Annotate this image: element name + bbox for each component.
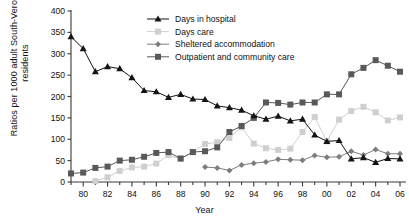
data-point-marker: [239, 162, 245, 168]
data-point-marker: [226, 129, 232, 135]
data-point-marker: [324, 154, 330, 160]
data-point-marker: [155, 41, 161, 47]
data-point-marker: [214, 165, 220, 171]
data-point-marker: [300, 157, 306, 163]
legend-label: Days in hospital: [175, 14, 236, 24]
y-axis-tick-label: 50: [55, 156, 65, 166]
y-axis-tick-label: 150: [51, 113, 66, 123]
data-point-marker: [373, 147, 379, 153]
legend-item: Days in hospital: [147, 14, 236, 24]
data-point-marker: [202, 148, 208, 154]
data-point-marker: [336, 91, 342, 97]
y-axis-tick-label: 0: [60, 177, 65, 187]
data-point-marker: [336, 117, 342, 123]
data-point-marker: [202, 141, 208, 147]
data-point-marker: [117, 168, 123, 174]
data-point-marker: [384, 155, 391, 161]
legend-item: Outpatient and community care: [147, 52, 295, 62]
data-point-marker: [275, 113, 282, 119]
data-point-marker: [141, 164, 147, 170]
data-series: [92, 104, 403, 184]
data-point-marker: [92, 178, 98, 184]
data-point-marker: [263, 145, 269, 151]
x-axis-tick-label: 92: [225, 189, 235, 199]
data-point-marker: [226, 167, 232, 173]
data-point-marker: [385, 63, 391, 69]
y-axis-tick-label: 300: [51, 49, 66, 59]
data-point-marker: [92, 165, 98, 171]
data-point-marker: [153, 161, 159, 167]
data-point-marker: [336, 137, 343, 143]
legend-label: Outpatient and community care: [175, 52, 295, 62]
data-point-marker: [312, 99, 318, 105]
data-point-marker: [251, 141, 257, 147]
data-point-marker: [324, 91, 330, 97]
legend-label: Days care: [175, 27, 214, 37]
data-point-marker: [214, 144, 220, 150]
data-point-marker: [348, 71, 354, 77]
data-point-marker: [155, 54, 161, 60]
data-point-marker: [165, 149, 171, 155]
data-point-marker: [128, 74, 135, 80]
data-point-marker: [178, 155, 184, 161]
data-point-marker: [68, 33, 75, 39]
x-axis-tick-label: 00: [322, 189, 332, 199]
data-point-marker: [80, 170, 86, 176]
x-axis-tick-label: 02: [346, 189, 356, 199]
y-axis-tick-label: 200: [51, 92, 66, 102]
series-line: [95, 107, 400, 181]
x-axis-tick-label: 82: [103, 189, 113, 199]
data-point-marker: [300, 99, 306, 105]
x-axis-tick-label: 98: [298, 189, 308, 199]
data-point-marker: [385, 117, 391, 123]
y-axis-tick-label: 400: [51, 6, 66, 16]
chart-figure: Ratios per 1000 adult South-Verona resid…: [0, 0, 409, 224]
data-point-marker: [263, 159, 269, 165]
x-axis-tick-label: 06: [395, 189, 405, 199]
data-point-marker: [117, 158, 123, 164]
chart-legend: Days in hospitalDays careSheltered accom…: [147, 14, 295, 62]
data-point-marker: [129, 164, 135, 170]
data-point-marker: [263, 99, 269, 105]
data-point-marker: [105, 164, 111, 170]
data-point-marker: [348, 148, 354, 154]
x-axis-tick-label: 86: [152, 189, 162, 199]
data-point-marker: [68, 170, 74, 176]
x-axis-tick-label: 94: [249, 189, 259, 199]
data-point-marker: [275, 147, 281, 153]
legend-item: Days care: [147, 27, 214, 37]
data-point-marker: [373, 57, 379, 63]
data-point-marker: [177, 91, 184, 97]
data-series: [202, 147, 403, 174]
y-axis: 050100150200250300350400: [51, 6, 71, 187]
data-point-marker: [287, 146, 293, 152]
x-axis-tick-label: 90: [200, 189, 210, 199]
data-point-marker: [226, 135, 232, 141]
data-point-marker: [360, 65, 366, 71]
data-point-marker: [141, 154, 147, 160]
data-point-marker: [397, 69, 403, 75]
data-point-marker: [155, 29, 161, 35]
data-point-marker: [190, 149, 196, 155]
data-point-marker: [312, 114, 318, 120]
data-point-marker: [275, 156, 281, 162]
data-point-marker: [153, 150, 159, 156]
data-point-marker: [239, 123, 245, 129]
data-point-marker: [202, 164, 208, 170]
data-point-marker: [348, 108, 354, 114]
plot-area: 050100150200250300350400 808284868890929…: [0, 0, 409, 224]
x-axis-tick-label: 04: [371, 189, 381, 199]
data-point-marker: [312, 152, 318, 158]
x-axis-tick-label: 80: [78, 189, 88, 199]
data-point-marker: [105, 174, 111, 180]
data-point-marker: [373, 109, 379, 115]
legend-item: Sheltered accommodation: [147, 39, 275, 49]
data-point-marker: [287, 102, 293, 108]
x-axis-tick-label: 84: [127, 189, 137, 199]
y-axis-tick-label: 100: [51, 134, 66, 144]
data-point-marker: [129, 157, 135, 163]
data-point-marker: [299, 116, 306, 122]
data-point-marker: [214, 102, 221, 108]
x-axis-tick-label: 96: [273, 189, 283, 199]
data-point-marker: [336, 154, 342, 160]
